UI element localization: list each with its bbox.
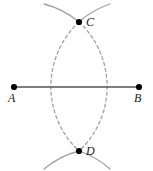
point-c-dot <box>76 19 82 25</box>
arc-from-A-solid-bottom <box>44 151 79 169</box>
arc-from-B-solid-top <box>79 4 110 22</box>
point-a-dot <box>11 84 17 90</box>
geometry-figure: A B C D <box>0 0 153 171</box>
point-label-d: D <box>86 145 95 157</box>
point-label-c: C <box>86 16 94 28</box>
point-label-a: A <box>8 92 15 104</box>
arc-from-A-solid-top <box>44 4 79 22</box>
point-b-dot <box>136 84 142 90</box>
construction-canvas <box>0 0 153 171</box>
point-label-b: B <box>134 92 141 104</box>
point-d-dot <box>76 148 82 154</box>
